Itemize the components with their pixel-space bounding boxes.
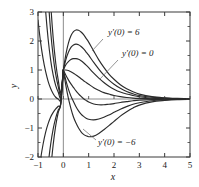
y-tick-label: −1 bbox=[24, 123, 34, 133]
y-tick-label: 2 bbox=[30, 36, 35, 46]
y-tick-label: 3 bbox=[30, 7, 35, 17]
x-tick-label: 4 bbox=[162, 160, 167, 170]
plot-canvas: −1012345 −2−10123 y'(0) = 6y'(0) = 0y'(0… bbox=[0, 0, 199, 187]
x-tick-label: 1 bbox=[86, 160, 91, 170]
x-tick-label: −1 bbox=[33, 160, 43, 170]
x-axis-label: x bbox=[110, 171, 116, 182]
y-tick-label: 0 bbox=[30, 94, 35, 104]
annotation-label-slope-zero: y'(0) = 0 bbox=[121, 48, 154, 58]
ode-solution-curves-figure: −1012345 −2−10123 y'(0) = 6y'(0) = 0y'(0… bbox=[0, 0, 199, 187]
y-tick-label: −2 bbox=[24, 152, 34, 162]
x-tick-label: 2 bbox=[112, 160, 117, 170]
annotation-label-slope-plus-six: y'(0) = 6 bbox=[107, 27, 140, 37]
y-tick-label: 1 bbox=[30, 65, 35, 75]
y-axis-label: y bbox=[8, 83, 19, 89]
x-tick-label: 5 bbox=[188, 160, 193, 170]
x-tick-label: 3 bbox=[137, 160, 142, 170]
x-tick-label: 0 bbox=[61, 160, 66, 170]
annotation-label-slope-minus-six: y'(0) = −6 bbox=[97, 137, 136, 147]
